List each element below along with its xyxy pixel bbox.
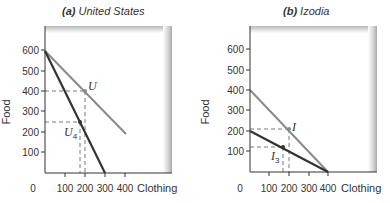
figure: (a) United States U U4 bbox=[0, 0, 390, 203]
svg-text:600: 600 bbox=[227, 44, 244, 55]
svg-text:200: 200 bbox=[22, 127, 39, 138]
svg-text:600: 600 bbox=[22, 45, 39, 56]
point-i bbox=[287, 127, 291, 131]
frame-right-shade bbox=[163, 26, 172, 173]
svg-text:300: 300 bbox=[227, 105, 244, 116]
panel-izodia: (b) Izodia I I3 bbox=[199, 5, 381, 194]
x-ticks-a bbox=[65, 173, 125, 177]
svg-text:400: 400 bbox=[117, 183, 134, 194]
svg-text:400: 400 bbox=[320, 183, 337, 194]
x-tick-labels-a: 0 100 200 300 400 bbox=[30, 183, 134, 194]
point-i3 bbox=[281, 145, 285, 149]
panel-united-states: (a) United States U U4 bbox=[0, 5, 177, 194]
y-tick-labels-a: 100 200 300 400 500 600 bbox=[22, 45, 39, 158]
svg-text:100: 100 bbox=[22, 147, 39, 158]
svg-text:200: 200 bbox=[77, 183, 94, 194]
svg-text:300: 300 bbox=[97, 183, 114, 194]
panel-a-title: (a) United States bbox=[62, 5, 145, 17]
svg-text:0: 0 bbox=[30, 183, 36, 194]
x-axis-label-b: Clothing bbox=[341, 182, 381, 194]
label-u: U bbox=[88, 79, 98, 93]
frame-top-shade bbox=[250, 26, 377, 33]
svg-text:400: 400 bbox=[22, 86, 39, 97]
svg-text:400: 400 bbox=[227, 85, 244, 96]
x-ticks-b bbox=[269, 172, 328, 176]
y-axis-label-a: Food bbox=[0, 99, 12, 124]
label-u4: U4 bbox=[64, 125, 78, 141]
x-tick-labels-b: 0 100 200 300 400 bbox=[237, 183, 337, 194]
dark-line-a bbox=[45, 51, 105, 173]
svg-text:500: 500 bbox=[22, 66, 39, 77]
y-tick-labels-b: 100 200 300 400 500 600 bbox=[227, 44, 244, 157]
point-u bbox=[83, 89, 87, 93]
frame-right-shade bbox=[368, 26, 377, 172]
point-u4 bbox=[78, 120, 82, 124]
y-ticks-b bbox=[246, 49, 250, 151]
x-axis-label-a: Clothing bbox=[137, 182, 177, 194]
y-ticks-a bbox=[41, 50, 45, 152]
svg-text:300: 300 bbox=[22, 106, 39, 117]
svg-text:200: 200 bbox=[227, 126, 244, 137]
svg-text:100: 100 bbox=[261, 183, 278, 194]
label-i: I bbox=[291, 120, 297, 134]
y-axis-label-b: Food bbox=[199, 99, 211, 124]
svg-text:300: 300 bbox=[301, 183, 318, 194]
svg-text:100: 100 bbox=[227, 146, 244, 157]
label-i3: I3 bbox=[270, 149, 280, 165]
svg-text:100: 100 bbox=[57, 183, 74, 194]
frame-top-shade bbox=[45, 26, 172, 33]
svg-text:0: 0 bbox=[237, 183, 243, 194]
svg-text:200: 200 bbox=[281, 183, 298, 194]
svg-text:500: 500 bbox=[227, 65, 244, 76]
panel-b-title: (b) Izodia bbox=[283, 5, 329, 17]
guide-lines bbox=[250, 129, 289, 172]
